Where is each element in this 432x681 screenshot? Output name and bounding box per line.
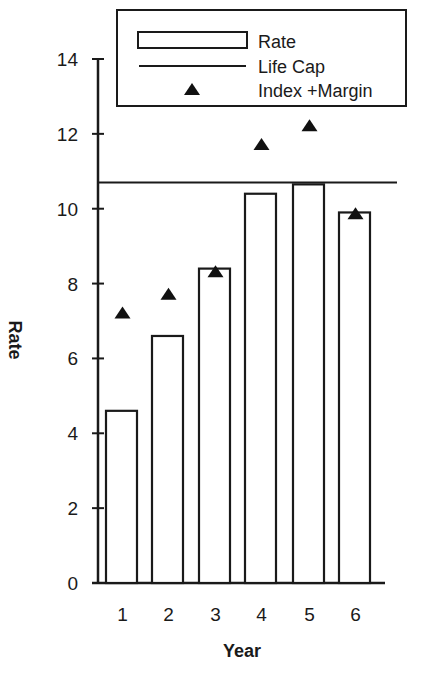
x-tick-label: 6 [350, 604, 361, 625]
x-tick-label: 2 [163, 604, 174, 625]
legend-label-life-cap: Life Cap [258, 57, 325, 77]
triangle-marker-icon [302, 119, 318, 131]
legend-label-rate: Rate [258, 32, 296, 52]
rate-bar [199, 269, 230, 583]
x-axis-title: Year [223, 641, 261, 661]
legend-label-index-margin: Index +Margin [258, 81, 373, 101]
rate-bar [106, 411, 137, 583]
triangle-marker-icon [254, 138, 270, 150]
legend: Rate Life Cap Index +Margin [117, 10, 406, 106]
y-axis-title: Rate [5, 320, 25, 359]
x-tick-label: 1 [117, 604, 128, 625]
x-tick-label: 3 [210, 604, 221, 625]
triangle-marker-icon [115, 307, 131, 319]
rate-bar [245, 194, 276, 583]
y-tick-label: 2 [67, 498, 78, 519]
x-tick-label: 5 [304, 604, 315, 625]
x-tick-labels: 123456 [117, 604, 361, 625]
rate-bar [293, 184, 324, 583]
y-tick-label: 8 [67, 274, 78, 295]
triangle-marker-icon [161, 288, 177, 300]
y-tick-label: 10 [57, 199, 78, 220]
y-tick-label: 14 [57, 49, 79, 70]
y-tick-label: 4 [67, 423, 78, 444]
y-tick-label: 6 [67, 348, 78, 369]
bars [106, 184, 370, 583]
y-tick-label: 12 [57, 124, 78, 145]
x-tick-label: 4 [256, 604, 267, 625]
rate-chart: 02468101214 123456 Year Rate Rate Life C… [0, 0, 432, 681]
legend-bar-swatch [138, 32, 247, 48]
rate-bar [339, 212, 370, 583]
index-margin-markers [115, 119, 364, 318]
y-tick-label: 0 [67, 573, 78, 594]
rate-bar [152, 336, 183, 583]
